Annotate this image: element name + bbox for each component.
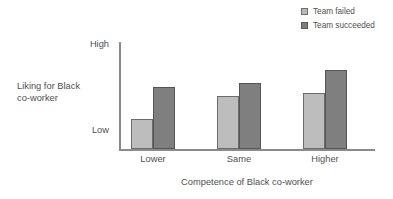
y-axis-title-line-2: co-worker bbox=[17, 92, 115, 104]
legend-label-team-succeeded: Team succeeded bbox=[313, 21, 375, 30]
x-axis-line bbox=[119, 149, 375, 151]
legend-swatch-team-succeeded-icon bbox=[301, 22, 308, 29]
chart-legend: Team failed Team succeeded bbox=[301, 5, 393, 33]
bar-same-team-failed bbox=[217, 96, 239, 150]
y-axis-label-low: Low bbox=[13, 125, 109, 136]
bar-lower-team-succeeded bbox=[153, 87, 175, 149]
legend-item-team-failed: Team failed bbox=[301, 5, 393, 18]
x-axis-tick-label-same: Same bbox=[203, 154, 275, 164]
y-axis-title: Liking for Black co-worker bbox=[17, 80, 115, 104]
legend-label-team-failed: Team failed bbox=[313, 7, 355, 16]
x-axis-tick-label-higher: Higher bbox=[289, 154, 361, 164]
bar-higher-team-failed bbox=[303, 93, 325, 149]
bar-lower-team-failed bbox=[131, 119, 153, 149]
legend-item-team-succeeded: Team succeeded bbox=[301, 19, 393, 32]
x-axis-tick-label-lower: Lower bbox=[117, 154, 189, 164]
x-axis-title: Competence of Black co-worker bbox=[119, 177, 375, 187]
bar-chart-figure: Team failed Team succeeded High Low Liki… bbox=[0, 0, 393, 199]
y-axis-title-line-1: Liking for Black bbox=[17, 80, 115, 92]
plot-area bbox=[119, 42, 375, 149]
x-axis-tick-labels: LowerSameHigher bbox=[119, 154, 375, 167]
bar-group-container bbox=[119, 42, 375, 149]
bar-higher-team-succeeded bbox=[325, 70, 347, 149]
legend-swatch-team-failed-icon bbox=[301, 8, 308, 15]
bar-same-team-succeeded bbox=[239, 83, 261, 149]
y-axis-label-high: High bbox=[13, 39, 109, 50]
